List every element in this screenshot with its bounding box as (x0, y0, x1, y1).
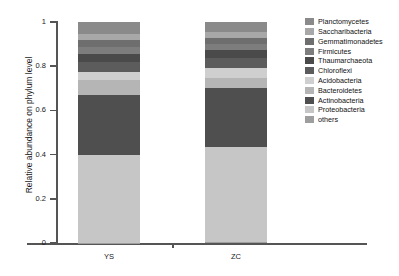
y-tick-mark (50, 110, 56, 112)
y-tick-label: 0.8 (16, 61, 46, 70)
legend-swatch-icon (305, 116, 314, 123)
legend-item-label: Planctomycetes (318, 17, 369, 26)
bar-segment[interactable] (78, 62, 140, 72)
legend-swatch-icon (305, 77, 314, 84)
legend-swatch-icon (305, 97, 314, 104)
legend-item[interactable]: Bacteroidetes (305, 85, 399, 95)
x-tick-label-ys: YS (79, 252, 139, 261)
y-tick-label: 0.4 (16, 150, 46, 159)
legend-item-label: Thaumarchaeota (318, 56, 372, 65)
legend-item-label: Actinobacteria (318, 96, 364, 105)
legend-item-label: Gemmatimonadetes (318, 37, 383, 46)
y-tick-mark (50, 154, 56, 156)
legend-swatch-icon (305, 67, 314, 74)
legend-swatch-icon (305, 57, 314, 64)
legend-item[interactable]: Proteobacteria (305, 105, 399, 115)
legend-item-label: Saccharibacteria (318, 27, 372, 36)
bar-segment[interactable] (205, 50, 267, 58)
legend-item-label: Firmicutes (318, 47, 351, 56)
legend-item[interactable]: Firmicutes (305, 46, 399, 56)
legend-swatch-icon (305, 87, 314, 94)
legend-item[interactable]: Gemmatimonadetes (305, 37, 399, 47)
y-tick-label: 0.2 (16, 194, 46, 203)
legend-item[interactable]: others (305, 115, 399, 125)
legend-item[interactable]: Actinobacteria (305, 95, 399, 105)
x-axis-line (27, 243, 367, 245)
y-tick-mark (50, 198, 56, 200)
stacked-bar-zc[interactable] (205, 22, 267, 243)
legend-item[interactable]: Acidobacteria (305, 76, 399, 86)
legend-swatch-icon (305, 38, 314, 45)
bar-segment[interactable] (78, 47, 140, 54)
legend-item[interactable]: Chloroflexi (305, 66, 399, 76)
x-tick-label-zc: ZC (206, 252, 266, 261)
x-tick-mark (172, 244, 174, 248)
legend-item-label: Chloroflexi (318, 66, 352, 75)
legend-swatch-icon (305, 28, 314, 35)
bar-segment[interactable] (205, 88, 267, 148)
legend-item[interactable]: Thaumarchaeota (305, 56, 399, 66)
legend-swatch-icon (305, 18, 314, 25)
bar-segment[interactable] (205, 68, 267, 78)
y-tick-label: 1 (16, 17, 46, 26)
chart-figure: Relative abundance on phylum level 00.20… (0, 0, 399, 276)
bar-segment[interactable] (78, 95, 140, 155)
bar-segment[interactable] (78, 80, 140, 95)
y-tick-label: 0 (16, 238, 46, 247)
bar-segment[interactable] (78, 155, 140, 243)
y-tick-mark (50, 242, 56, 244)
legend: PlanctomycetesSaccharibacteriaGemmatimon… (305, 17, 399, 125)
legend-swatch-icon (305, 106, 314, 113)
legend-item[interactable]: Saccharibacteria (305, 27, 399, 37)
legend-item[interactable]: Planctomycetes (305, 17, 399, 27)
y-tick-label: 0.6 (16, 105, 46, 114)
legend-item-label: Proteobacteria (318, 105, 365, 114)
stacked-bar-ys[interactable] (78, 22, 140, 243)
bar-segment[interactable] (78, 54, 140, 62)
bar-segment[interactable] (78, 22, 140, 34)
bar-segment[interactable] (78, 72, 140, 80)
bar-segment[interactable] (205, 58, 267, 68)
bar-segment[interactable] (205, 22, 267, 32)
plot-area (57, 22, 289, 243)
y-tick-mark (50, 21, 56, 23)
legend-item-label: others (318, 115, 338, 124)
legend-item-label: Bacteroidetes (318, 86, 362, 95)
bar-segment[interactable] (78, 40, 140, 47)
y-tick-mark (50, 65, 56, 67)
legend-swatch-icon (305, 48, 314, 55)
legend-item-label: Acidobacteria (318, 76, 362, 85)
bar-segment[interactable] (205, 78, 267, 88)
bar-segment[interactable] (205, 147, 267, 242)
